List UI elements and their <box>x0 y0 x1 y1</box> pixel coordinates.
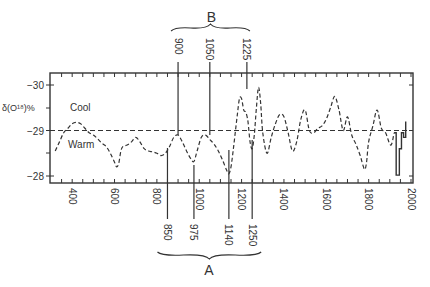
oxygen-isotope-chart: 400600800100012001400160018002000 −30−29… <box>0 0 430 287</box>
period-markers: 90010501225B85097511401250A <box>157 9 261 278</box>
data-series <box>55 87 405 175</box>
warm-annotation: Warm <box>68 139 94 150</box>
group-label-b: B <box>207 9 216 25</box>
axis-ticks <box>46 73 413 183</box>
x-tick-label: 1000 <box>194 188 205 211</box>
x-tick-label: 800 <box>151 188 162 205</box>
marker-year-label: 900 <box>173 38 184 55</box>
x-tick-labels: 400600800100012001400160018002000 <box>67 188 417 211</box>
x-tick-label: 1600 <box>321 188 332 211</box>
x-tick-label: 2000 <box>406 188 417 211</box>
x-tick-label: 400 <box>67 188 78 205</box>
marker-year-label: 1050 <box>204 38 215 61</box>
y-tick-labels: −30−29−28 <box>27 80 44 182</box>
x-tick-label: 1400 <box>278 188 289 211</box>
y-tick-label: −28 <box>27 171 44 182</box>
y-axis-label: δ(O¹⁸)% <box>2 103 35 113</box>
marker-year-label: 1140 <box>223 224 234 246</box>
marker-year-label: 1225 <box>241 38 252 61</box>
y-tick-label: −30 <box>27 80 44 91</box>
marker-year-label: 975 <box>188 224 199 241</box>
group-label-a: A <box>204 262 214 278</box>
x-tick-label: 1800 <box>363 188 374 211</box>
marker-year-label: 850 <box>162 224 173 241</box>
instrumental-curve <box>394 121 406 175</box>
marker-year-label: 1250 <box>247 224 258 247</box>
cool-annotation: Cool <box>70 102 91 113</box>
y-tick-label: −29 <box>27 126 44 137</box>
x-tick-label: 600 <box>109 188 120 205</box>
x-tick-label: 1200 <box>236 188 247 211</box>
